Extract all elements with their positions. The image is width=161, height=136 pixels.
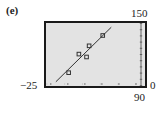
- x-tick: [101, 83, 102, 84]
- xmin-label: −25: [20, 80, 37, 91]
- x-tick: [135, 83, 136, 84]
- ymin-label: 0: [150, 80, 156, 91]
- x-tick: [67, 83, 68, 84]
- scatter-plot: [44, 21, 147, 88]
- calculator-screen: [44, 21, 147, 88]
- panel-label: (e): [6, 4, 18, 16]
- x-tick: [50, 83, 51, 84]
- x-tick: [84, 83, 85, 84]
- ymax-label: 150: [131, 8, 148, 19]
- xmax-label: 90: [134, 92, 145, 103]
- x-tick: [118, 83, 119, 84]
